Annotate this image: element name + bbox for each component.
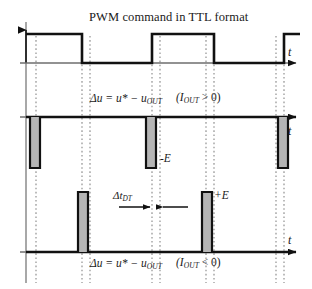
- figure-stage: PWM command in TTL format: [0, 0, 312, 289]
- deadtime-symbol: Δt: [113, 189, 123, 201]
- middle-equation-main: Δu = u* − u: [90, 92, 147, 104]
- deadtime-label: ΔtDT: [113, 190, 132, 201]
- bottom-pulse: [78, 192, 88, 252]
- time-axis-label-middle: t: [288, 125, 291, 137]
- time-axis-label-top: t: [288, 46, 291, 58]
- middle-pulse-group: [30, 117, 288, 168]
- plot-delta-u-negative-current: [20, 192, 296, 252]
- bottom-equation-label: Δu = u* − uOUT: [90, 258, 162, 270]
- bottom-condition-tail: < 0): [199, 256, 221, 268]
- time-axis-label-bottom: t: [288, 234, 291, 246]
- bottom-pulse: [202, 192, 212, 252]
- middle-equation-subscript: OUT: [147, 97, 162, 106]
- bottom-condition-open: (I: [176, 256, 184, 268]
- bottom-condition-label: (IOUT < 0): [176, 257, 221, 269]
- bottom-equation-subscript: OUT: [147, 262, 162, 271]
- deadtime-subscript: DT: [123, 194, 132, 203]
- middle-condition-tail: > 0): [199, 91, 221, 103]
- pwm-deadtime-figure: PWM command in TTL format: [0, 0, 312, 289]
- plus-e-label: +E: [214, 190, 229, 202]
- pwm-waveform: [26, 34, 300, 63]
- middle-pulse: [278, 117, 288, 168]
- waveform-canvas: [0, 0, 312, 289]
- bottom-equation-main: Δu = u* − u: [90, 257, 147, 269]
- middle-condition-open: (I: [176, 91, 184, 103]
- middle-pulse: [146, 117, 156, 168]
- middle-pulse: [30, 117, 40, 168]
- minus-e-label: -E: [160, 153, 171, 165]
- middle-equation-label: Δu = u* − uOUT: [90, 93, 162, 105]
- middle-condition-label: (IOUT > 0): [176, 92, 221, 104]
- plot-delta-u-positive-current: [20, 117, 296, 168]
- middle-condition-subscript: OUT: [184, 96, 199, 105]
- bottom-pulse-group: [78, 192, 212, 252]
- bottom-condition-subscript: OUT: [184, 261, 199, 270]
